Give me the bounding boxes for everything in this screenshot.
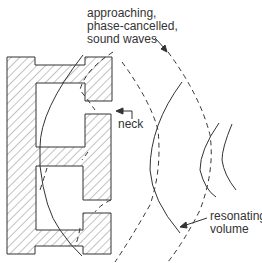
neck-label: neck <box>118 118 143 131</box>
resonator-body <box>7 57 112 254</box>
leader-arrows <box>116 38 207 228</box>
waves-label-line3: sound waves <box>87 33 157 46</box>
arrow-head-neck <box>116 108 123 114</box>
volume-label-line2: volume <box>210 223 249 236</box>
arrow-head-volume <box>180 222 187 228</box>
